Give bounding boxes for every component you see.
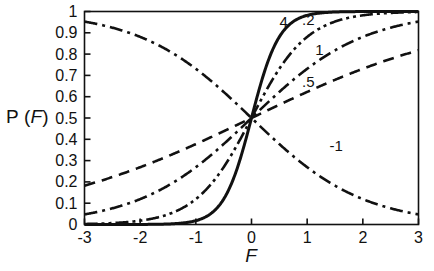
y-axis-tick-labels: 00.10.20.30.40.50.60.70.80.91 <box>55 3 77 233</box>
y-axis-title: P (F) <box>6 106 49 128</box>
curve-label: -1 <box>329 137 342 154</box>
y-tick-label: 0.5 <box>55 110 77 127</box>
x-axis-tick-labels: -3-2-10123 <box>77 229 423 246</box>
y-tick-label: 0.7 <box>55 67 77 84</box>
y-tick-label: 0.6 <box>55 88 77 105</box>
curve-label: .2 <box>302 11 315 28</box>
x-tick-label: 3 <box>414 229 423 246</box>
x-tick-label: 0 <box>247 229 256 246</box>
y-tick-label: 0.3 <box>55 152 77 169</box>
y-axis-title-variable: F <box>31 106 43 127</box>
y-tick-label: 1 <box>69 3 78 20</box>
curve-label: 4 <box>280 13 288 30</box>
x-tick-label: 1 <box>303 229 312 246</box>
y-tick-label: 0.1 <box>55 195 77 212</box>
x-tick-label: 2 <box>358 229 367 246</box>
curve-label: 1 <box>315 41 323 58</box>
y-tick-label: 0.8 <box>55 46 77 63</box>
x-tick-label: -1 <box>189 229 203 246</box>
figure-container: P (F) 00.10.20.30.40.50.60.70.80.91 -3-2… <box>0 0 434 271</box>
curve-label: .5 <box>302 73 315 90</box>
sigmoid-curves-plot: 00.10.20.30.40.50.60.70.80.91 -3-2-10123… <box>0 0 434 271</box>
y-axis-title-suffix: ) <box>42 106 49 127</box>
x-tick-label: -2 <box>133 229 147 246</box>
y-tick-label: 0.2 <box>55 173 77 190</box>
y-tick-label: 0.4 <box>55 131 77 148</box>
y-axis-title-prefix: P ( <box>6 106 31 127</box>
y-tick-label: 0.9 <box>55 24 77 41</box>
x-tick-label: -3 <box>77 229 91 246</box>
y-tick-label: 0 <box>69 216 78 233</box>
x-axis-title: F <box>245 245 258 266</box>
